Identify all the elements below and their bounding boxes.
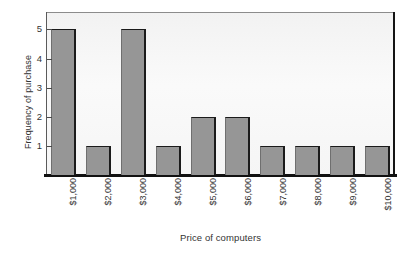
bar (191, 117, 216, 175)
y-tick-label: 3 (24, 83, 42, 93)
bar (330, 146, 355, 175)
y-tick-mark (47, 29, 52, 30)
bar (121, 29, 146, 175)
plot-area (46, 12, 395, 175)
bar (51, 29, 76, 175)
y-tick-label: 5 (24, 25, 42, 35)
y-tick-label: 1 (24, 141, 42, 151)
y-tick-label: 2 (24, 112, 42, 122)
y-tick-mark (47, 146, 52, 147)
y-axis-tick-labels: 12345 (24, 8, 42, 180)
bar-chart-figure: Frequency of purchase 12345 $1,000$2,000… (0, 0, 417, 257)
bar (156, 146, 181, 175)
bar (260, 146, 285, 175)
bar (225, 117, 250, 175)
y-tick-mark (47, 59, 52, 60)
y-tick-mark (47, 117, 52, 118)
y-tick-label: 4 (24, 54, 42, 64)
bar (365, 146, 390, 175)
x-axis-title: Price of computers (46, 232, 395, 243)
bar (295, 146, 320, 175)
y-tick-mark (47, 88, 52, 89)
bar-series (46, 12, 395, 175)
bar (86, 146, 111, 175)
x-tick-label: $10,000 (382, 178, 417, 230)
x-axis-tick-labels: $1,000$2,000$3,000$4,000$5,000$6,000$7,0… (46, 178, 395, 230)
